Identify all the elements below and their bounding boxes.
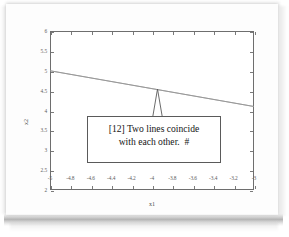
x-tick-label: -3 — [252, 175, 256, 181]
page-sheet: [12] Two lines coincide with each other.… — [6, 4, 278, 215]
y-tick-label: 4 — [44, 108, 47, 114]
y-tick-label: 5.5 — [41, 48, 47, 54]
figure: [12] Two lines coincide with each other.… — [18, 14, 276, 212]
y-tick-label: 4.5 — [41, 88, 47, 94]
x-tick-label: -3.8 — [168, 175, 176, 181]
y-tick-label: 6 — [44, 28, 47, 34]
annotation-line-1: [12] Two lines coincide — [88, 123, 220, 136]
page-edge-shadow-bottom-soft — [10, 222, 278, 231]
y-tick-label: 2.5 — [41, 167, 47, 173]
x-tick-label: -3.6 — [189, 175, 197, 181]
y-axis-tick-right — [250, 191, 253, 192]
y-tick-label: 2 — [44, 187, 47, 193]
y-axis-label: x2 — [23, 119, 29, 125]
x-axis-tick — [255, 186, 256, 189]
annotation-line-2: with each other. # — [88, 136, 220, 149]
x-tick-label: -5 — [48, 175, 52, 181]
x-tick-label: -4 — [150, 175, 154, 181]
y-tick-label: 5 — [44, 68, 47, 74]
x-tick-label: -4.6 — [87, 175, 95, 181]
y-tick-label: 3 — [44, 147, 47, 153]
y-axis-tick — [51, 191, 54, 192]
x-tick-label: -3.4 — [209, 175, 217, 181]
x-tick-label: -4.4 — [107, 175, 115, 181]
x-tick-label: -4.8 — [66, 175, 74, 181]
x-axis-label: x1 — [149, 201, 155, 207]
scanned-page: [12] Two lines coincide with each other.… — [0, 0, 287, 237]
x-tick-label: -3.2 — [230, 175, 238, 181]
annotation-callout-box: [12] Two lines coincide with each other.… — [87, 116, 221, 163]
x-axis-tick-top — [255, 32, 256, 35]
x-tick-label: -4.2 — [128, 175, 136, 181]
y-tick-label: 3.5 — [41, 127, 47, 133]
